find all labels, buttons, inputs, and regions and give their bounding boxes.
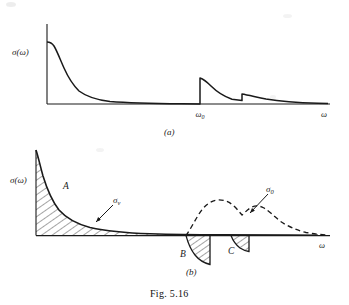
sigma-0-subscript: 0 xyxy=(270,188,273,195)
panel-a: ω0 ω xyxy=(47,24,330,120)
region-label-b: B xyxy=(180,250,186,260)
figure-caption: Fig. 5.16 xyxy=(150,288,189,299)
panel-a-y-axis-label: σ(ω) xyxy=(12,48,29,57)
region-A-fill xyxy=(36,150,220,236)
region-label-a: A xyxy=(63,182,69,192)
figure-drawing: ω0 ω ω xyxy=(0,0,349,305)
panel-b: ω xyxy=(36,150,330,265)
sigma-v-label: σv xyxy=(113,196,120,207)
panel-a-x-tick-omega0: ω0 xyxy=(195,109,204,120)
panel-b-y-axis-label: σ(ω) xyxy=(10,176,27,185)
sigma-v-leader-line xyxy=(96,205,113,222)
figure-container: ω0 ω ω σ(ω) (a) σ(ω) A B C σv σ0 (b) Fig… xyxy=(0,0,349,305)
panel-a-marker: (a) xyxy=(164,128,175,137)
sigma-v-curve xyxy=(36,150,318,235)
region-label-c: C xyxy=(228,247,234,257)
panel-b-x-axis-label: ω xyxy=(319,240,325,250)
sigma-v-subscript: v xyxy=(117,199,120,206)
panel-a-x-axis-label: ω xyxy=(321,109,327,119)
region-B-fill xyxy=(186,236,210,265)
panel-b-marker: (b) xyxy=(186,268,197,277)
sigma-0-label: σ0 xyxy=(266,185,274,196)
panel-a-curve xyxy=(47,42,328,104)
sigma-0-leader-line xyxy=(250,194,268,213)
